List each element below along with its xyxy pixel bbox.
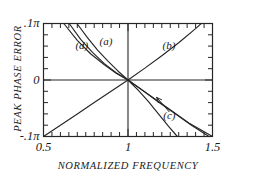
curve-label-c: (c) [163, 110, 175, 121]
curve-b [44, 21, 205, 137]
curve-label-a: (a) [100, 36, 113, 47]
x-tick-label-left: 0.5 [24, 141, 64, 154]
curve-label-d: (d) [75, 40, 88, 51]
y-axis-title: PEAK PHASE ERROR [13, 22, 24, 135]
x-tick-label-center: 1 [108, 141, 148, 154]
figure-peak-phase-error: .1π 0 -.1π 0.5 1 1.5 PEAK PHASE ERROR NO… [0, 0, 265, 180]
curve-label-b: (b) [163, 40, 176, 51]
x-tick-label-right: 1.5 [193, 141, 233, 154]
x-axis-title: NORMALIZED FREQUENCY [44, 161, 213, 172]
